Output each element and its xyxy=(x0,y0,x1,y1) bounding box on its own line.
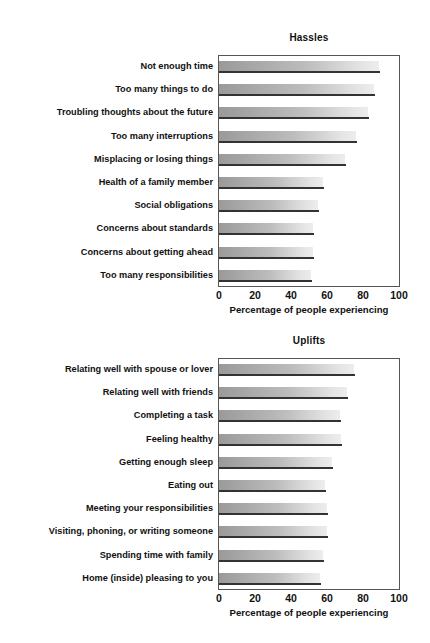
bar-row xyxy=(219,522,399,545)
bar xyxy=(219,177,323,189)
y-axis-label: Getting enough sleep xyxy=(0,456,213,468)
bar-row xyxy=(219,360,399,383)
bar xyxy=(219,364,354,376)
bar xyxy=(219,154,345,166)
y-axis-label: Meeting your responsibilities xyxy=(0,502,213,514)
x-tick-label: 60 xyxy=(321,592,333,604)
chart-uplifts: Uplifts Relating well with spouse or lov… xyxy=(0,328,430,628)
bar-row xyxy=(219,453,399,476)
chart-page: { "chart_data": [ { "type": "bar", "orie… xyxy=(0,0,430,643)
x-axis-ticks-uplifts: 0 20 40 60 80 100 xyxy=(218,592,400,606)
y-axis-label: Not enough time xyxy=(0,60,213,72)
bar xyxy=(219,387,347,399)
bar xyxy=(219,480,325,492)
y-axis-label: Concerns about getting ahead xyxy=(0,246,213,258)
x-tick-label: 40 xyxy=(285,592,297,604)
x-tick-label: 0 xyxy=(216,289,222,301)
y-axis-label: Completing a task xyxy=(0,409,213,421)
bar-row xyxy=(219,266,399,289)
y-axis-label: Eating out xyxy=(0,479,213,491)
x-tick-label: 20 xyxy=(249,592,261,604)
bar xyxy=(219,457,332,469)
y-axis-label: Misplacing or losing things xyxy=(0,153,213,165)
bar xyxy=(219,107,368,119)
bar xyxy=(219,61,379,73)
bar-row xyxy=(219,476,399,499)
bar xyxy=(219,247,313,259)
y-axis-labels-hassles: Not enough time Too many things to do Tr… xyxy=(0,55,213,287)
bar xyxy=(219,84,374,96)
bar-row xyxy=(219,499,399,522)
bar xyxy=(219,434,341,446)
x-tick-label: 0 xyxy=(216,592,222,604)
bar-row xyxy=(219,383,399,406)
x-tick-label: 80 xyxy=(357,289,369,301)
y-axis-label: Relating well with spouse or lover xyxy=(0,363,213,375)
x-tick-label: 100 xyxy=(390,289,408,301)
bar-row xyxy=(219,57,399,80)
bar-series-hassles xyxy=(219,56,399,286)
bar-row xyxy=(219,196,399,219)
y-axis-label: Spending time with family xyxy=(0,549,213,561)
y-axis-label: Feeling healthy xyxy=(0,433,213,445)
bar xyxy=(219,223,313,235)
y-axis-label: Troubling thoughts about the future xyxy=(0,106,213,118)
bar-row xyxy=(219,219,399,242)
bar-row xyxy=(219,406,399,429)
bar-row xyxy=(219,569,399,592)
x-tick-label: 80 xyxy=(357,592,369,604)
x-tick-label: 40 xyxy=(285,289,297,301)
x-tick-label: 20 xyxy=(249,289,261,301)
chart-title-hassles: Hassles xyxy=(218,32,400,43)
y-axis-label: Home (inside) pleasing to you xyxy=(0,572,213,584)
x-tick-label: 100 xyxy=(390,592,408,604)
chart-title-uplifts: Uplifts xyxy=(218,335,400,346)
y-axis-label: Relating well with friends xyxy=(0,386,213,398)
y-axis-label: Concerns about standards xyxy=(0,222,213,234)
bar-row xyxy=(219,430,399,453)
bar xyxy=(219,270,311,282)
plot-area-uplifts xyxy=(218,358,400,590)
y-axis-labels-uplifts: Relating well with spouse or lover Relat… xyxy=(0,358,213,590)
x-tick-label: 60 xyxy=(321,289,333,301)
bar xyxy=(219,131,356,143)
bar-row xyxy=(219,150,399,173)
bar xyxy=(219,410,340,422)
bar-row xyxy=(219,103,399,126)
bar xyxy=(219,526,327,538)
y-axis-label: Visiting, phoning, or writing someone xyxy=(0,525,213,537)
bar-row xyxy=(219,80,399,103)
y-axis-label: Too many responsibilities xyxy=(0,269,213,281)
y-axis-label: Too many interruptions xyxy=(0,130,213,142)
bar-row xyxy=(219,173,399,196)
bar xyxy=(219,550,323,562)
x-axis-title-uplifts: Percentage of people experiencing xyxy=(218,607,400,618)
plot-area-hassles xyxy=(218,55,400,287)
y-axis-label: Too many things to do xyxy=(0,83,213,95)
chart-hassles: Hassles Not enough time Too many things … xyxy=(0,25,430,325)
y-axis-label: Social obligations xyxy=(0,199,213,211)
bar-series-uplifts xyxy=(219,359,399,589)
x-axis-ticks-hassles: 0 20 40 60 80 100 xyxy=(218,289,400,303)
bar xyxy=(219,200,318,212)
bar xyxy=(219,573,320,585)
bar-row xyxy=(219,127,399,150)
y-axis-label: Health of a family member xyxy=(0,176,213,188)
bar-row xyxy=(219,243,399,266)
x-axis-title-hassles: Percentage of people experiencing xyxy=(218,304,400,315)
bar xyxy=(219,503,327,515)
bar-row xyxy=(219,546,399,569)
